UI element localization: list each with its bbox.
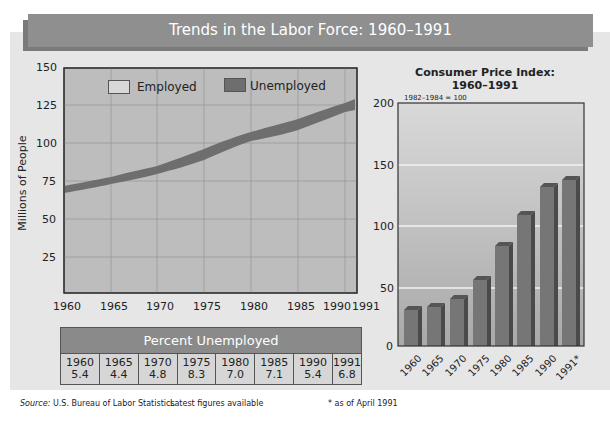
footnote: * as of April 1991 xyxy=(328,399,398,408)
cpi-y-tick: 50 xyxy=(380,282,394,295)
cpi-y-tick: 150 xyxy=(373,159,394,172)
source-note: Source: U.S. Bureau of Labor Statistics xyxy=(20,399,175,408)
cpi-y-tick: 0 xyxy=(386,340,393,353)
latest-figures-note: Latest figures available xyxy=(170,399,263,408)
cpi-y-tick: 200 xyxy=(373,97,394,110)
cpi-y-tick: 100 xyxy=(373,220,394,233)
